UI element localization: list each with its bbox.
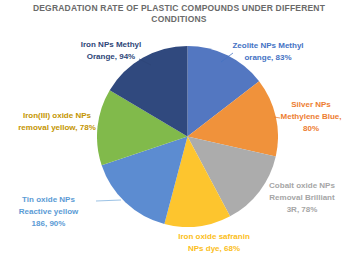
- data-label-cobalt-oxide-nps: Cobalt oxide NPs Removal Brilliant 3R, 7…: [262, 180, 342, 216]
- data-label-silver-nps-methylene-blue: Silver NPs Methylene Blue, 80%: [271, 99, 351, 135]
- pie-plot: [97, 46, 278, 227]
- data-label-iron-iii-oxide-nps: Iron(III) oxide NPs removal yellow, 78%: [7, 110, 107, 134]
- chart-title: DEGRADATION RATE OF PLASTIC COMPOUNDS UN…: [29, 3, 329, 25]
- data-label-iron-nps-methyl-orange: Iron NPs Methyl Orange, 94%: [51, 39, 171, 63]
- pie-chart: DEGRADATION RATE OF PLASTIC COMPOUNDS UN…: [0, 0, 359, 263]
- data-label-tin-oxide-nps: Tin oxide NPs Reactive yellow 186, 90%: [0, 194, 97, 230]
- data-label-zeolite-nps-methyl-orange: Zeolite NPs Methyl orange, 83%: [208, 40, 328, 64]
- data-label-iron-oxide-safranin: Iron oxide safranin NPs dye, 68%: [154, 231, 274, 255]
